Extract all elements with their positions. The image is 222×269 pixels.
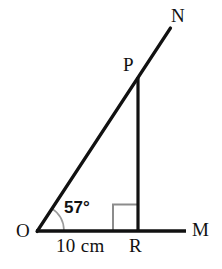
vertex-label-r: R [129,236,142,255]
vertex-label-p: P [123,55,134,74]
geometry-canvas [0,0,222,269]
hypotenuse-line-ON [37,28,171,232]
base-length-label: 10 cm [56,236,104,255]
vertex-label-o: O [16,221,30,240]
vertex-label-n: N [171,6,185,25]
vertex-label-m: M [192,220,209,239]
geometry-figure: O M N P R 10 cm 57° [0,0,222,269]
right-angle-marker-icon [113,205,137,232]
angle-measure-label: 57° [64,199,90,216]
angle-arc-icon [52,208,64,231]
